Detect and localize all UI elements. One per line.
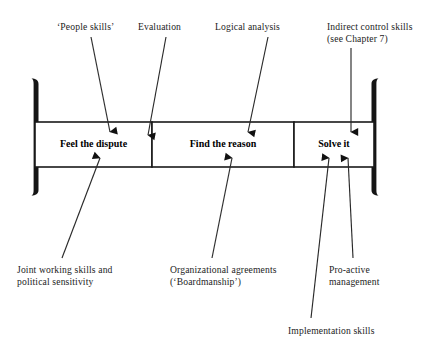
annotation-indirect-control-line2: (see Chapter 7) — [327, 33, 413, 45]
annotation-joint-working-line1: Joint working skills and — [17, 264, 113, 276]
annotation-joint-working: Joint working skills and political sensi… — [17, 264, 113, 287]
leader-pro-active — [348, 158, 353, 258]
segment-label-find: Find the reason — [152, 138, 294, 149]
diagram-canvas: Feel the dispute Find the reason Solve i… — [0, 0, 440, 359]
leader-joint-working — [62, 158, 100, 258]
leader-organizational-agreements — [212, 158, 232, 258]
annotation-organizational-agreements-line1: Organizational agreements — [170, 264, 277, 276]
leader-people-skills — [91, 37, 110, 132]
annotation-indirect-control-line1: Indirect control skills — [327, 21, 413, 33]
top-leader-lines — [91, 37, 351, 135]
annotation-joint-working-line2: political sensitivity — [17, 276, 113, 288]
leader-implementation — [311, 158, 329, 318]
annotation-evaluation: Evaluation — [138, 21, 181, 33]
annotation-indirect-control: Indirect control skills (see Chapter 7) — [327, 21, 413, 44]
annotation-pro-active-line2: management — [329, 276, 380, 288]
annotation-pro-active-line1: Pro-active — [329, 264, 380, 276]
segment-label-feel: Feel the dispute — [35, 138, 152, 149]
bottom-leader-lines — [62, 158, 353, 318]
annotation-people-skills: ‘People skills’ — [57, 21, 114, 33]
leader-evaluation — [148, 37, 166, 135]
annotation-implementation: Implementation skills — [288, 325, 375, 337]
annotation-logical-analysis: Logical analysis — [215, 21, 280, 33]
annotation-pro-active: Pro-active management — [329, 264, 380, 287]
annotation-organizational-agreements: Organizational agreements (‘Boardmanship… — [170, 264, 277, 287]
annotation-organizational-agreements-line2: (‘Boardmanship’) — [170, 276, 277, 288]
segment-label-solve: Solve it — [294, 138, 374, 149]
diagram-vector-layer — [0, 0, 440, 359]
leader-logical-analysis — [248, 37, 268, 132]
